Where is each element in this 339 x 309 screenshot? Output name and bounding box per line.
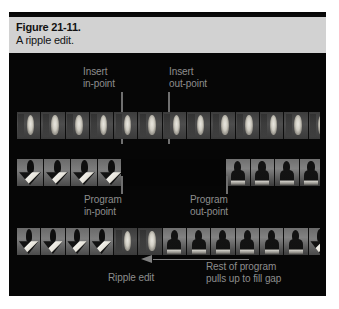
label-insert-in-point: Insert in-point — [83, 66, 131, 89]
arrow-shaft — [153, 259, 249, 260]
film-frame — [211, 228, 235, 255]
program-in-point-marker — [121, 176, 123, 194]
film-frame — [66, 228, 90, 255]
film-frame — [114, 228, 138, 255]
label-program-in-point: Program in-point — [84, 194, 144, 217]
film-frame — [138, 112, 162, 139]
film-frame — [309, 112, 320, 139]
film-frame — [71, 159, 98, 186]
program-strip-gap — [121, 159, 226, 186]
figure-caption-band: Figure 21-11. A ripple edit. — [9, 14, 326, 53]
film-frame — [90, 112, 114, 139]
film-frame — [163, 112, 187, 139]
label-program-out-point: Program out-point — [190, 194, 260, 217]
label-ripple-edit: Ripple edit — [108, 272, 188, 284]
film-frame — [17, 159, 44, 186]
film-frame — [17, 112, 41, 139]
insert-out-point-marker-tail — [168, 139, 170, 144]
result-timeline-strip — [17, 228, 320, 255]
film-frame — [226, 159, 251, 186]
film-frame — [309, 228, 320, 255]
film-frame — [284, 228, 308, 255]
figure-caption-title: Figure 21-11. — [16, 21, 326, 34]
insert-in-point-marker-tail — [121, 139, 123, 144]
film-frame — [44, 159, 71, 186]
film-frame — [187, 228, 211, 255]
label-rest-of-program: Rest of program pulls up to fill gap — [206, 261, 316, 284]
film-frame — [41, 228, 65, 255]
film-frame — [260, 112, 284, 139]
film-frame — [41, 112, 65, 139]
figure-root: Figure 21-11. A ripple edit. Insert in-p… — [0, 0, 339, 309]
film-frame — [300, 159, 321, 186]
film-frame — [17, 228, 41, 255]
program-out-point-marker — [226, 176, 228, 194]
arrow-head-icon — [141, 255, 152, 263]
film-frame — [236, 112, 260, 139]
film-frame — [284, 112, 308, 139]
film-frame — [138, 228, 162, 255]
film-frame — [163, 228, 187, 255]
film-frame — [98, 159, 121, 186]
film-frame — [114, 112, 138, 139]
film-frame — [275, 159, 300, 186]
film-frame — [187, 112, 211, 139]
program-strip-left-segment — [17, 159, 121, 186]
source-clip-strip — [17, 112, 320, 139]
film-frame — [236, 228, 260, 255]
program-strip-right-segment — [226, 159, 320, 186]
film-frame — [90, 228, 114, 255]
film-frame — [251, 159, 276, 186]
label-insert-out-point: Insert out-point — [169, 66, 225, 89]
film-frame — [66, 112, 90, 139]
film-frame — [211, 112, 235, 139]
figure-caption-subtitle: A ripple edit. — [16, 34, 326, 47]
film-frame — [260, 228, 284, 255]
